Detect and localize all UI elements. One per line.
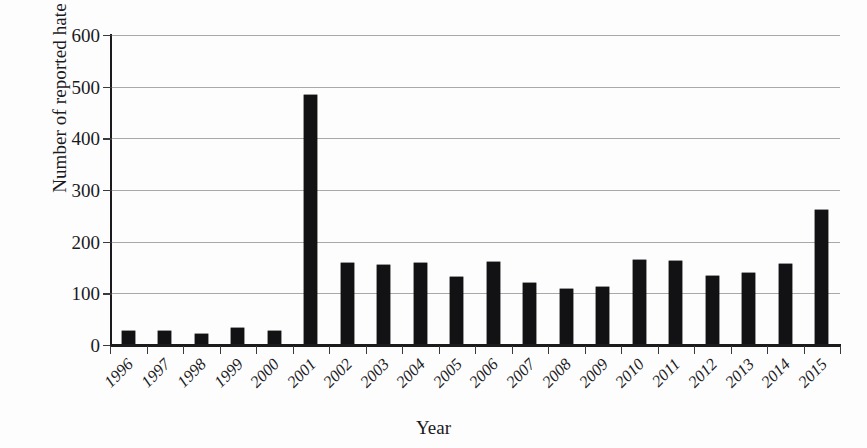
x-axis-tick-label: 2004 (394, 356, 429, 391)
x-axis-tick (804, 346, 805, 354)
bar (779, 264, 792, 345)
gridline (110, 87, 840, 88)
bar (560, 289, 573, 345)
y-axis-tick (103, 138, 112, 139)
x-axis-tick-label: 1996 (102, 356, 137, 391)
bar (742, 273, 755, 345)
x-axis-tick (147, 346, 148, 354)
x-axis-tick-label: 2005 (430, 356, 465, 391)
bar (304, 95, 317, 345)
chart-figure: Number of reported hate crimes 010020030… (0, 0, 867, 448)
x-axis-tick-label: 2003 (357, 356, 392, 391)
y-axis-tick (103, 190, 112, 191)
y-axis-tick-label: 300 (40, 181, 100, 200)
x-axis-tick (694, 346, 695, 354)
x-axis-tick (183, 346, 184, 354)
x-axis-tick-label: 2010 (613, 356, 648, 391)
x-axis-tick (731, 346, 732, 354)
x-axis-tick-label: 2007 (503, 356, 538, 391)
x-axis-tick (366, 346, 367, 354)
bar (815, 210, 828, 345)
x-axis-tick (439, 346, 440, 354)
bar (377, 265, 390, 345)
bar (450, 277, 463, 345)
x-axis-tick-label: 2000 (248, 356, 283, 391)
x-axis-tick (329, 346, 330, 354)
y-axis-tick (103, 242, 112, 243)
y-axis-tick (103, 35, 112, 36)
bar (158, 331, 171, 345)
x-axis-tick (658, 346, 659, 354)
bar (487, 262, 500, 345)
x-axis-tick-label: 2009 (576, 356, 611, 391)
x-axis-tick-label: 2014 (759, 356, 794, 391)
y-axis-tick-label: 100 (40, 284, 100, 303)
x-axis-tick (402, 346, 403, 354)
x-axis-tick (256, 346, 257, 354)
x-axis-tick-label: 2001 (284, 356, 319, 391)
gridline (110, 35, 840, 36)
gridline (110, 190, 840, 191)
gridline (110, 242, 840, 243)
x-axis-tick-label: 1997 (138, 356, 173, 391)
y-axis-tick-label: 600 (40, 26, 100, 45)
x-axis-tick (110, 346, 111, 354)
gridline (110, 293, 840, 294)
bar (706, 276, 719, 345)
gridline (110, 138, 840, 139)
bar (231, 328, 244, 345)
plot-area (110, 35, 840, 345)
x-axis-tick-label: 2006 (467, 356, 502, 391)
x-axis-tick-label: 2013 (722, 356, 757, 391)
y-axis-tick-label: 0 (40, 336, 100, 355)
x-axis-tick-label: 2012 (686, 356, 721, 391)
bar (414, 263, 427, 345)
x-axis-title: Year (0, 417, 867, 439)
bar (669, 261, 682, 345)
x-axis-tick (512, 346, 513, 354)
x-axis-tick-label: 1998 (175, 356, 210, 391)
bar (633, 260, 646, 345)
x-axis-tick-label: 2008 (540, 356, 575, 391)
bar (596, 287, 609, 345)
x-axis-tick (767, 346, 768, 354)
bar (523, 283, 536, 345)
bar (122, 331, 135, 345)
x-axis-tick (293, 346, 294, 354)
y-axis-tick (103, 293, 112, 294)
y-axis-tick-label: 200 (40, 233, 100, 252)
y-axis-tick-label: 500 (40, 78, 100, 97)
x-axis-tick-label: 2002 (321, 356, 356, 391)
x-axis-tick (475, 346, 476, 354)
x-axis-tick-label: 2015 (795, 356, 830, 391)
x-axis-tick (621, 346, 622, 354)
bar (341, 263, 354, 345)
x-axis-tick (840, 346, 841, 354)
x-axis-tick-label: 2011 (649, 356, 683, 390)
bar (268, 331, 281, 345)
y-axis-tick-label: 400 (40, 129, 100, 148)
x-axis-tick (220, 346, 221, 354)
y-axis-tick (103, 87, 112, 88)
x-axis-tick (548, 346, 549, 354)
x-axis-tick-label: 1999 (211, 356, 246, 391)
x-axis-tick (585, 346, 586, 354)
